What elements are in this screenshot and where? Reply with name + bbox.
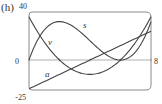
y-tick-label-bottom: -25 — [15, 93, 26, 102]
curve-label-v: v — [48, 37, 52, 47]
y-tick-label-zero: 0 — [15, 57, 19, 66]
curve-label-s: s — [83, 20, 87, 30]
curve-label-a: a — [45, 69, 50, 79]
x-tick-label-right: 8 — [154, 57, 158, 66]
y-tick-label-top: 40 — [19, 2, 27, 11]
chart: 400-258sva — [0, 0, 162, 104]
labels: 400-258sva — [15, 2, 158, 102]
